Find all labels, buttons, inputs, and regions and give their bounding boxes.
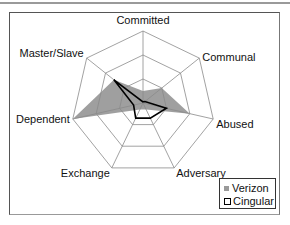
axis-label: Communal [202, 51, 255, 63]
legend-label: Verizon [232, 182, 269, 195]
axis-label: Abused [216, 118, 253, 130]
axis-label: Master/Slave [19, 47, 83, 59]
verizon-area [73, 80, 190, 119]
axis-label: Dependent [16, 113, 70, 125]
axis-label: Exchange [61, 167, 110, 179]
legend: Verizon Cingular [219, 178, 276, 209]
verizon-swatch-icon [224, 186, 229, 191]
axis-label: Committed [116, 14, 169, 26]
cingular-swatch-icon [224, 198, 231, 205]
legend-label: Cingular [233, 195, 274, 208]
legend-item-verizon: Verizon [224, 182, 269, 195]
legend-item-cingular: Cingular [224, 195, 274, 208]
axis-spoke [143, 58, 199, 103]
